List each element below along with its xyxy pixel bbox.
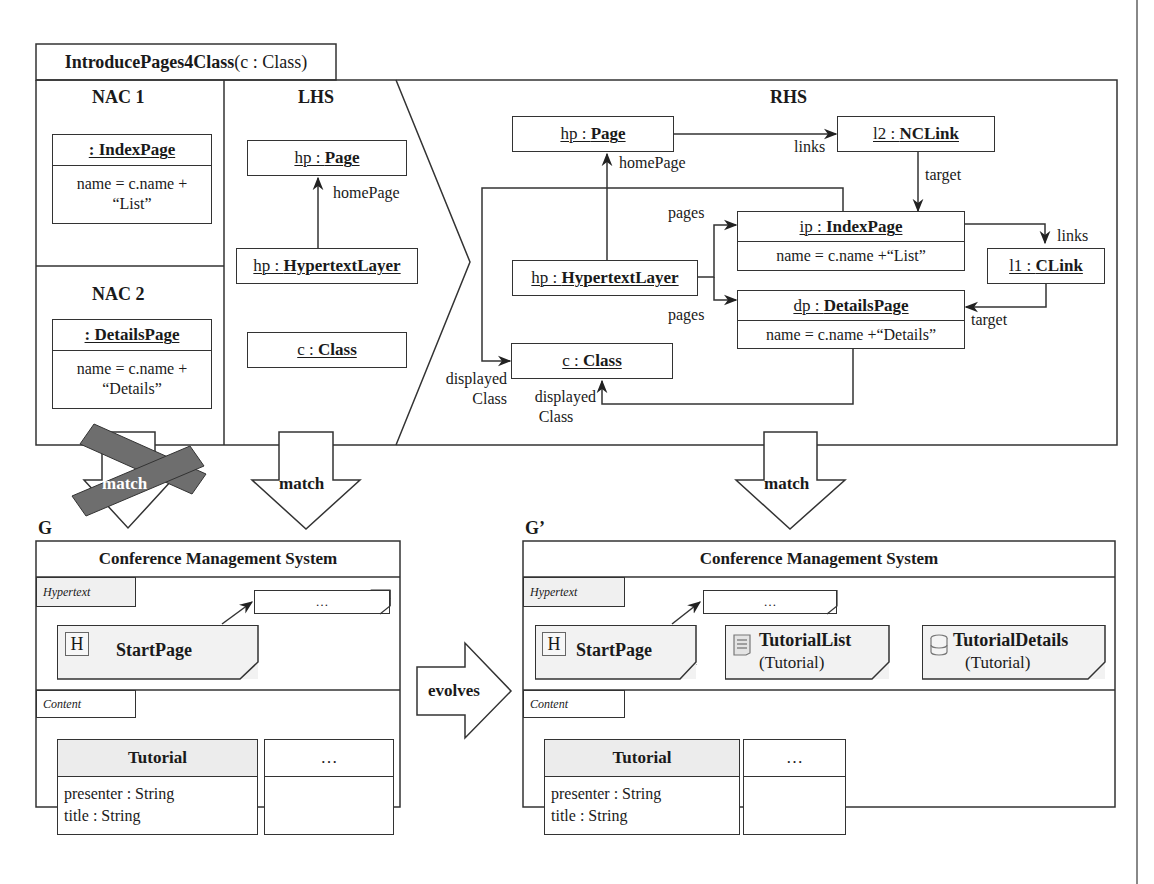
nac2-attr-line2: “Details” [102,379,162,399]
rhs-page-id: hp : [560,124,590,143]
nac2-attr-line1: name = c.name + [77,359,187,379]
nac2-detailspage-object[interactable]: : DetailsPage name = c.name + “Details” [52,319,212,409]
rhs-indexpage-id: ip : [800,217,826,236]
rhs-edge-displayed2-b: Class [516,408,596,426]
rhs-detailspage-attr: name = c.name +“Details” [766,325,936,345]
lhs-page-id: hp : [294,148,324,167]
graph-g2-class-name: Tutorial [613,748,672,768]
home-h-icon: H [65,632,89,656]
rhs-nclink-object[interactable]: l2 : NCLink [837,116,995,152]
rhs-edge-target-right: target [971,311,1007,329]
rhs-hypertextlayer-object[interactable]: hp : HypertextLayer [512,260,698,296]
rhs-edge-displayed2-a: displayed [516,388,596,406]
rhs-title: RHS [770,87,807,108]
graph-g-class-name: Tutorial [128,748,187,768]
graph-g2-title: Conference Management System [523,541,1115,577]
rhs-clink-type: CLink [1036,256,1083,275]
nac-match-crossed-label: match [102,474,147,494]
nac1-attr-line1: name = c.name + [77,174,187,194]
rhs-detailspage-type: DetailsPage [824,296,909,315]
nac1-attr-line2: “List” [112,194,151,214]
rule-params: (c : Class) [234,52,307,73]
graph-g2-class-attr: presenter : String [551,783,733,805]
rhs-layer-type: HypertextLayer [562,268,679,287]
rhs-edge-links-top: links [794,138,825,156]
nac2-title: NAC 2 [92,284,145,305]
tutorialdetails-sub: (Tutorial) [965,653,1031,673]
rhs-layer-id: hp : [531,268,561,287]
tutoriallist-sub: (Tutorial) [759,653,825,673]
lhs-class-id: c : [297,340,318,359]
rhs-class-object[interactable]: c : Class [511,343,673,379]
rhs-edge-homepage: homePage [619,154,686,172]
rhs-detailspage-object[interactable]: dp : DetailsPage name = c.name +“Details… [737,290,965,349]
lhs-layer-type: HypertextLayer [284,256,401,275]
rhs-nclink-type: NCLink [899,124,959,143]
rhs-edge-links-right: links [1057,227,1088,245]
lhs-class-type: Class [318,340,357,359]
rhs-indexpage-type: IndexPage [826,217,903,236]
rhs-edge-displayed1-b: Class [429,390,507,408]
graph-g-title: Conference Management System [36,541,400,577]
lhs-edge-homepage: homePage [333,184,400,202]
rhs-edge-pages-top: pages [668,204,704,222]
index-list-icon [732,633,752,657]
nac2-object-name: : DetailsPage [85,325,180,345]
graph-g2-tutorial-class[interactable]: Tutorial presenter : String title : Stri… [544,739,740,835]
rule-signature: IntroducePages4Class(c : Class) [36,44,336,80]
graph-g2-content-tab[interactable]: Content [523,690,625,718]
rhs-indexpage-attr: name = c.name +“List” [776,246,926,266]
rhs-edge-target-top: target [925,166,961,184]
lhs-match-label: match [279,474,324,494]
rhs-clink-id: l1 : [1009,256,1035,275]
tutorialdetails-label: TutorialDetails [953,630,1068,651]
graph-g-class-attr: presenter : String [64,783,251,805]
lhs-page-type: Page [325,148,360,167]
graph-g-content-tab[interactable]: Content [36,690,136,718]
home-h-icon: H [542,632,566,656]
rhs-detailspage-id: dp : [793,296,823,315]
lhs-title: LHS [298,87,334,108]
graph-g2-tutoriallist-page[interactable]: TutorialList (Tutorial) [725,625,889,679]
lhs-class-object[interactable]: c : Class [247,332,407,368]
graph-g-label: G [38,518,52,539]
rhs-page-object[interactable]: hp : Page [512,116,674,152]
lhs-layer-id: hp : [253,256,283,275]
evolves-label: evolves [428,681,480,701]
graph-g2-startpage[interactable]: H StartPage [535,625,696,679]
graph-g-hypertext-tab[interactable]: Hypertext [36,577,136,607]
rule-name: IntroducePages4Class [65,52,235,73]
lhs-page-object[interactable]: hp : Page [247,140,407,176]
graph-g2-hypertext-tab[interactable]: Hypertext [523,577,625,607]
rhs-class-id: c : [562,351,583,370]
graph-g-ellipsis-class[interactable]: … [264,739,394,835]
graph-g-startpage-label: StartPage [116,640,192,661]
lhs-hypertextlayer-object[interactable]: hp : HypertextLayer [236,248,418,284]
rhs-page-type: Page [591,124,626,143]
rhs-edge-pages-bottom: pages [668,306,704,324]
nac1-object-name: : IndexPage [89,140,175,160]
rhs-class-type: Class [583,351,622,370]
rhs-edge-displayed1-a: displayed [429,370,507,388]
graph-g-startpage[interactable]: H StartPage [57,625,258,679]
rhs-nclink-id: l2 : [873,124,899,143]
nac1-indexpage-object[interactable]: : IndexPage name = c.name + “List” [52,134,212,224]
graph-g2-startpage-label: StartPage [576,640,652,661]
rhs-clink-object[interactable]: l1 : CLink [987,248,1105,284]
graph-g2-label: G’ [525,518,545,539]
rhs-indexpage-object[interactable]: ip : IndexPage name = c.name +“List” [737,211,965,271]
tutoriallist-label: TutorialList [759,630,851,651]
graph-g2-class-attr: title : String [551,805,733,827]
rhs-match-label: match [764,474,809,494]
graph-g-ellipsis-page[interactable]: … [254,590,390,614]
graph-g2-tutorialdetails-page[interactable]: TutorialDetails (Tutorial) [922,625,1105,679]
graph-g2-ellipsis-page[interactable]: … [703,590,837,614]
graph-g-class-attr: title : String [64,805,251,827]
graph-g-tutorial-class[interactable]: Tutorial presenter : String title : Stri… [57,739,258,835]
nac1-title: NAC 1 [92,87,145,108]
graph-g2-ellipsis-class[interactable]: … [743,739,846,835]
database-icon [929,633,949,657]
